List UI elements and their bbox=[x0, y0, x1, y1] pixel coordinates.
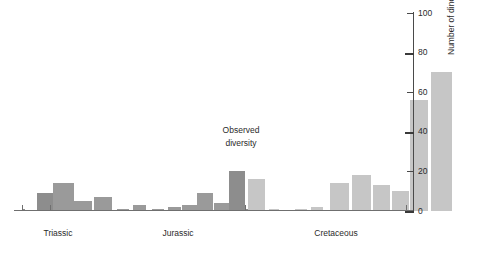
y-tick-label: 100 bbox=[418, 9, 432, 18]
y-tick-label: 20 bbox=[418, 167, 427, 176]
bar bbox=[352, 175, 371, 211]
period-label-jurassic: Jurassic bbox=[162, 228, 193, 238]
y-tick-label: 0 bbox=[418, 207, 423, 216]
observed-diversity-annotation: Observed diversity bbox=[193, 124, 289, 150]
y-tick-label: 80 bbox=[418, 48, 427, 57]
annotation-line-2: diversity bbox=[193, 137, 289, 150]
y-tick-mark bbox=[405, 132, 414, 134]
y-tick-mark bbox=[407, 171, 414, 172]
dinosaur-diversity-chart: 100806040200 TriassicJurassicCretaceous … bbox=[0, 0, 477, 256]
bar bbox=[53, 183, 74, 211]
y-tick-label: 40 bbox=[418, 127, 427, 136]
y-axis-title: Number of dinosaur genera bbox=[446, 0, 456, 55]
y-tick-label: 60 bbox=[418, 88, 427, 97]
y-axis-line bbox=[413, 12, 414, 211]
bar-series bbox=[14, 13, 406, 211]
period-label-triassic: Triassic bbox=[44, 228, 73, 238]
y-tick-mark bbox=[407, 92, 414, 93]
x-tick-mark bbox=[245, 205, 246, 211]
period-label-cretaceous: Cretaceous bbox=[314, 228, 357, 238]
y-tick-mark bbox=[405, 211, 414, 213]
bar bbox=[431, 72, 452, 211]
annotation-line-1: Observed bbox=[193, 124, 289, 137]
x-tick-mark bbox=[50, 205, 51, 211]
bar bbox=[373, 185, 390, 211]
x-tick-mark bbox=[22, 205, 23, 211]
y-tick-mark bbox=[407, 13, 414, 14]
bar bbox=[197, 193, 213, 211]
x-tick-mark bbox=[406, 205, 407, 211]
y-tick-mark bbox=[405, 53, 414, 55]
bar bbox=[94, 197, 112, 211]
bar bbox=[330, 183, 349, 211]
bar bbox=[248, 179, 265, 211]
bar bbox=[229, 171, 245, 211]
x-axis-baseline bbox=[14, 210, 413, 211]
plot-area bbox=[14, 13, 406, 211]
